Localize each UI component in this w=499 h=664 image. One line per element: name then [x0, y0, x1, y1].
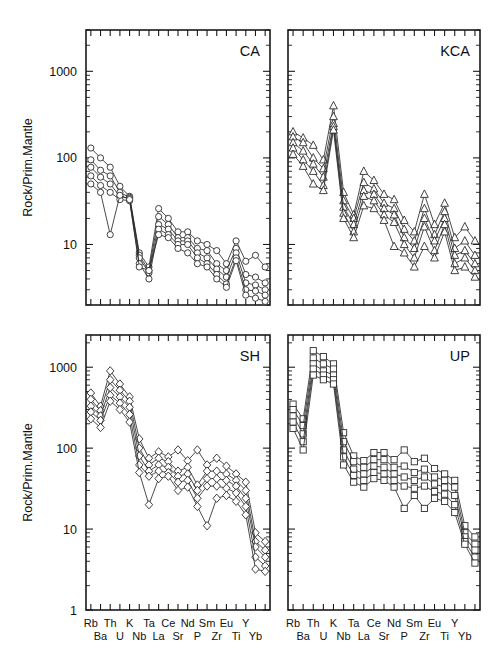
data-marker [309, 180, 317, 187]
data-marker [381, 464, 387, 470]
data-marker [88, 164, 94, 170]
data-marker [361, 458, 367, 464]
data-marker [204, 241, 210, 247]
series-KCA-2 [289, 112, 479, 258]
x-axis-label-u: U [116, 630, 124, 642]
data-marker [97, 155, 103, 161]
data-marker [400, 216, 408, 223]
data-marker [361, 464, 367, 470]
data-marker [452, 502, 458, 508]
data-marker [136, 264, 142, 270]
data-marker [88, 145, 94, 151]
data-marker [442, 484, 448, 490]
data-marker [117, 192, 123, 198]
data-marker [214, 247, 220, 253]
data-marker [290, 406, 296, 412]
data-marker [252, 565, 259, 573]
data-marker [300, 439, 306, 445]
data-marker [185, 241, 191, 247]
data-marker [252, 282, 258, 288]
series-SH-3 [87, 383, 269, 561]
data-marker [156, 232, 162, 238]
y-axis-tick-label: 100 [56, 151, 77, 165]
data-marker [330, 101, 338, 108]
data-marker [461, 263, 469, 270]
data-marker [351, 459, 357, 465]
panel-kca: KCA [288, 30, 480, 305]
data-marker [242, 478, 249, 486]
panel-up: UPRbBaThUKNbTaLaCeSrNdPSmZrEuTiYYb [286, 335, 480, 642]
x-axis-label-ta: Ta [143, 617, 156, 629]
x-axis-label-th: Th [307, 617, 320, 629]
data-marker [431, 481, 437, 487]
data-marker [252, 274, 258, 280]
figure-container: 101001000Rock/Prim.MantleCAKCA1101001000… [0, 0, 499, 664]
data-marker [391, 471, 397, 477]
data-marker [381, 450, 387, 456]
data-marker [156, 213, 162, 219]
data-marker [400, 240, 408, 247]
data-marker [223, 476, 230, 484]
data-marker [194, 238, 200, 244]
panel-label-sh: SH [240, 348, 260, 364]
data-marker [126, 196, 132, 202]
data-marker [381, 457, 387, 463]
data-marker [452, 477, 458, 483]
x-axis-label-ti: Ti [440, 630, 449, 642]
x-axis-label-sm: Sm [406, 617, 423, 629]
data-marker [194, 261, 200, 267]
data-marker [214, 276, 220, 282]
data-marker [156, 205, 162, 211]
data-marker [213, 494, 220, 502]
data-marker [204, 255, 210, 261]
data-marker [391, 484, 397, 490]
data-marker [107, 164, 113, 170]
series-UP-1 [290, 348, 478, 540]
data-marker [299, 147, 307, 154]
data-marker [421, 474, 427, 480]
x-axis-label-ba: Ba [296, 630, 310, 642]
panel-label-up: UP [450, 348, 470, 364]
data-marker [390, 195, 398, 202]
data-marker [371, 463, 377, 469]
data-marker [262, 292, 268, 298]
data-marker [401, 447, 407, 453]
data-marker [107, 232, 113, 238]
data-marker [203, 522, 210, 530]
data-marker [441, 199, 449, 206]
x-axis-label-u: U [319, 630, 327, 642]
data-marker [461, 246, 469, 253]
data-marker [472, 541, 478, 547]
data-marker [88, 157, 94, 163]
x-axis-label-ce: Ce [161, 617, 175, 629]
x-axis-label-ba: Ba [94, 630, 108, 642]
x-axis-label-rb: Rb [84, 617, 98, 629]
data-marker [233, 238, 239, 244]
data-marker [146, 267, 152, 273]
data-marker [107, 173, 113, 179]
data-marker [252, 295, 258, 301]
panel-ca: 101001000Rock/Prim.MantleCA [21, 30, 270, 305]
series-SH-1 [87, 367, 269, 546]
data-marker [175, 245, 181, 251]
data-marker [411, 485, 417, 491]
data-marker [155, 474, 162, 482]
data-marker [461, 237, 469, 244]
x-axis-label-nd: Nd [387, 617, 401, 629]
data-marker [431, 474, 437, 480]
y-axis-tick-label: 1000 [49, 65, 77, 79]
x-axis-label-p: P [194, 630, 201, 642]
data-marker [472, 560, 478, 566]
data-marker [320, 361, 326, 367]
data-marker [261, 567, 268, 575]
data-marker [184, 483, 191, 491]
data-marker [381, 477, 387, 483]
data-marker [340, 454, 346, 460]
x-axis-label-la: La [358, 630, 371, 642]
y-axis-tick-label: 10 [63, 238, 77, 252]
x-axis-label-nb: Nb [337, 630, 351, 642]
series-line [91, 380, 265, 550]
data-marker [262, 280, 268, 286]
x-axis-label-yb: Yb [249, 630, 262, 642]
x-axis-label-k: K [330, 617, 338, 629]
